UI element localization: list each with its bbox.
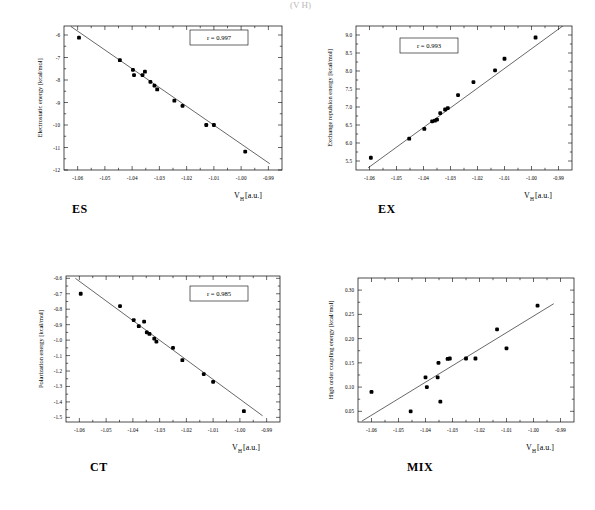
y-tick-label: -0.8 <box>54 306 63 312</box>
x-tick-label: -0.99 <box>555 427 566 433</box>
regression-line <box>362 304 554 421</box>
y-tick-label: 6.0 <box>346 140 353 146</box>
x-tick-label: -0.99 <box>263 175 274 181</box>
data-point <box>79 292 83 296</box>
data-point <box>155 88 159 92</box>
x-tick-label: -1.05 <box>101 427 112 433</box>
x-tick-label: -1.00 <box>236 175 247 181</box>
x-tick-label: -1.00 <box>526 175 537 181</box>
data-point <box>243 150 247 154</box>
data-point <box>448 357 452 361</box>
chart-panel-ex: -1.06-1.05-1.04-1.03-1.02-1.01-1.00-0.99… <box>300 8 590 203</box>
data-point <box>424 375 428 379</box>
data-point <box>180 358 184 362</box>
data-point <box>153 84 157 88</box>
y-axis-title: Electrostatic energy [kcal/mol] <box>36 58 43 137</box>
correlation-value: r = 0.993 <box>417 42 442 49</box>
x-tick-label: -1.05 <box>391 175 402 181</box>
data-point <box>472 80 476 84</box>
chart-panel-es: -1.06-1.05-1.04-1.03-1.02-1.01-1.00-0.99… <box>12 8 297 203</box>
data-point <box>474 357 478 361</box>
x-tick-label: -1.04 <box>127 427 138 433</box>
x-axis-title: VH [a.u.] <box>232 443 260 454</box>
x-tick-label: -1.05 <box>99 175 110 181</box>
x-tick-label: -1.06 <box>364 175 375 181</box>
regression-line <box>368 24 565 168</box>
y-tick-label: 0.30 <box>345 287 354 293</box>
x-axis-title-unit: [a.u.] <box>537 443 554 452</box>
data-point <box>369 156 373 160</box>
data-points <box>79 292 246 413</box>
x-tick-label: -1.03 <box>154 175 165 181</box>
data-point <box>204 123 208 127</box>
x-tick-label: -0.99 <box>553 175 564 181</box>
data-points <box>77 36 247 154</box>
x-axis-title-unit: [a.u.] <box>243 443 260 452</box>
x-axis-title-subscript: H <box>532 448 536 454</box>
y-tick-label: 6.5 <box>346 122 353 128</box>
x-tick-label: -1.02 <box>181 427 192 433</box>
y-tick-label: 9.0 <box>346 32 353 38</box>
data-point <box>141 73 145 77</box>
regression-line <box>75 278 262 416</box>
x-tick-label: -1.01 <box>208 427 219 433</box>
y-axis-title: Polarization energy [kcal/mol] <box>37 310 44 388</box>
data-point <box>118 58 122 62</box>
panel-caption-ct: CT <box>90 460 108 475</box>
y-tick-label: -1.3 <box>54 383 63 389</box>
panel-caption-ex: EX <box>378 202 396 217</box>
data-point <box>438 111 442 115</box>
x-axis-title-unit: [a.u.] <box>535 191 552 200</box>
data-point <box>77 36 81 40</box>
y-tick-label: 0.20 <box>345 336 354 342</box>
data-point <box>143 70 147 74</box>
data-point <box>212 123 216 127</box>
correlation-value: r = 0.997 <box>207 34 232 41</box>
data-point <box>132 318 136 322</box>
correlation-value: r = 0.985 <box>207 290 232 297</box>
y-tick-label: -1.5 <box>54 414 63 420</box>
x-tick-label: -1.05 <box>393 427 404 433</box>
y-tick-label: -8 <box>56 77 61 83</box>
data-point <box>436 375 440 379</box>
x-tick-label: -1.01 <box>501 427 512 433</box>
data-point <box>438 400 442 404</box>
x-tick-label: -1.02 <box>472 175 483 181</box>
y-axis-title: Exchange repulsion energy [kcal/mol] <box>326 49 333 147</box>
data-point <box>137 324 141 328</box>
x-tick-label: -1.00 <box>528 427 539 433</box>
y-tick-label: 8.0 <box>346 68 353 74</box>
y-tick-label: 0.10 <box>345 384 354 390</box>
data-points <box>369 36 538 160</box>
y-tick-label: -0.6 <box>54 275 63 281</box>
x-tick-label: -1.04 <box>418 175 429 181</box>
y-tick-label: -10 <box>53 122 60 128</box>
data-point <box>211 380 215 384</box>
plot-ct: -1.06-1.05-1.04-1.03-1.02-1.01-1.00-0.99… <box>12 258 297 456</box>
data-point <box>536 304 540 308</box>
plot-frame <box>358 278 574 422</box>
chart-panel-ct: -1.06-1.05-1.04-1.03-1.02-1.01-1.00-0.99… <box>12 258 297 456</box>
plot-frame <box>64 26 282 170</box>
data-point <box>493 68 497 72</box>
data-point <box>464 357 468 361</box>
y-tick-label: -1.2 <box>54 368 63 374</box>
data-point <box>495 327 499 331</box>
y-tick-label: -0.9 <box>54 322 63 328</box>
data-point <box>437 361 441 365</box>
panel-caption-mix: MIX <box>407 460 433 475</box>
data-point <box>155 340 159 344</box>
data-point <box>118 304 122 308</box>
x-tick-label: -1.01 <box>208 175 219 181</box>
x-tick-label: -1.06 <box>74 427 85 433</box>
y-tick-label: -7 <box>56 55 61 61</box>
y-tick-label: -1.4 <box>54 399 63 405</box>
data-point <box>132 73 136 77</box>
x-tick-label: -1.00 <box>234 427 245 433</box>
x-tick-label: -1.06 <box>72 175 83 181</box>
data-point <box>142 320 146 324</box>
y-tick-label: 0.25 <box>345 311 354 317</box>
data-point <box>242 409 246 413</box>
data-point <box>409 409 413 413</box>
x-tick-label: -1.03 <box>447 427 458 433</box>
